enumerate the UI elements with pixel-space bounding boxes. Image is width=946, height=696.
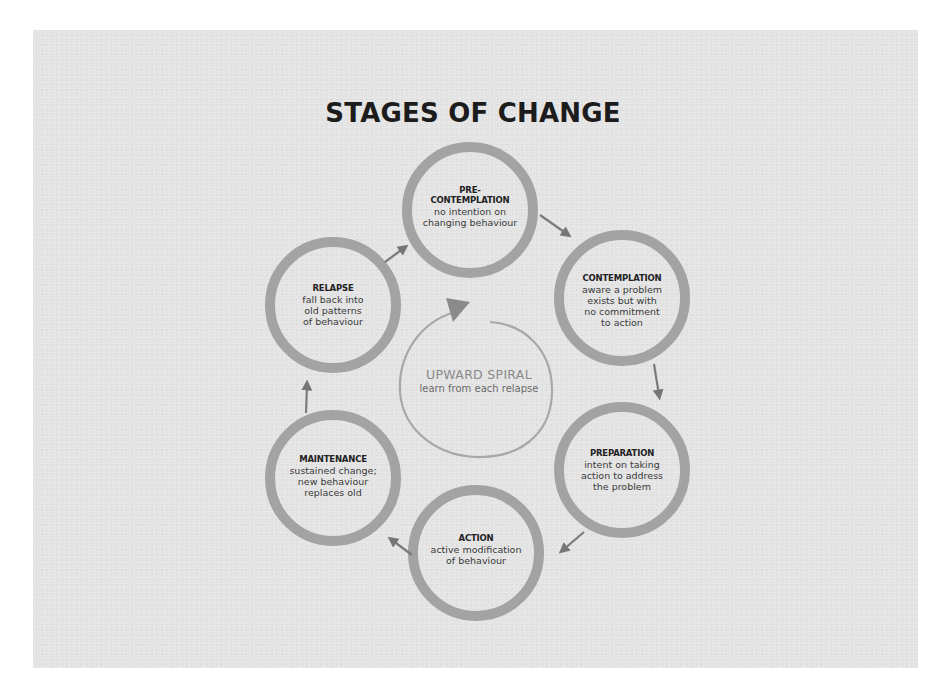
stage-description: no intention onchanging behaviour [414, 206, 526, 228]
spiral-arrowhead-icon [446, 298, 470, 322]
stage-description: aware a problemexists but withno commitm… [566, 284, 678, 328]
stage-description: sustained change;new behaviourreplaces o… [277, 465, 389, 498]
stage-preparation: PREPARATION intent on takingaction to ad… [566, 448, 678, 492]
stage-name: RELAPSE [277, 283, 389, 293]
stage-name: PREPARATION [566, 448, 678, 458]
stage-maintenance: MAINTENANCE sustained change;new behavio… [277, 454, 389, 498]
stage-contemplation: CONTEMPLATION aware a problemexists but … [566, 273, 678, 328]
stage-description: active modificationof behaviour [420, 544, 532, 566]
stage-name: PRE-CONTEMPLATION [414, 185, 526, 205]
stage-name: MAINTENANCE [277, 454, 389, 464]
arrow-contemplation-to-preparation [654, 364, 659, 395]
stage-relapse: RELAPSE fall back intoold patternsof beh… [277, 283, 389, 327]
arrow-maintenance-to-relapse [306, 385, 307, 413]
arrow-preparation-to-action [563, 532, 584, 550]
stage-description: intent on takingaction to addressthe pro… [566, 459, 678, 492]
cycle-diagram [0, 0, 946, 696]
stage-name: ACTION [420, 533, 532, 543]
arrow-precontemplation-to-contemplation [540, 215, 567, 234]
upward-spiral-title: UPWARD SPIRAL [409, 367, 549, 382]
stage-precontemplation: PRE-CONTEMPLATION no intention onchangin… [414, 185, 526, 228]
stage-name: CONTEMPLATION [566, 273, 678, 283]
upward-spiral-subtitle: learn from each relapse [409, 383, 549, 394]
stage-description: fall back intoold patternsof behaviour [277, 294, 389, 327]
upward-spiral-label: UPWARD SPIRAL learn from each relapse [409, 367, 549, 394]
arrow-relapse-to-precontemplation [385, 248, 404, 262]
stage-action: ACTION active modificationof behaviour [420, 533, 532, 566]
